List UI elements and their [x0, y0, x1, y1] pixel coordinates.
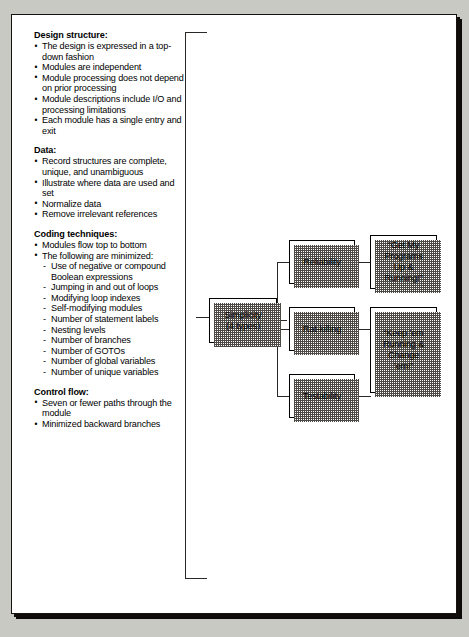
criteria-section-heading: Control flow:: [34, 387, 186, 397]
criteria-subitem: Modifying loop indexes: [42, 293, 186, 304]
criteria-subitem: Number of branches: [42, 335, 186, 346]
criteria-subitem: Number of GOTOs: [42, 346, 186, 357]
criteria-bullet-item: Module processing does not depend on pri…: [34, 73, 186, 94]
criteria-subitem: Number of unique variables: [42, 367, 186, 378]
criteria-bullet-item: Minimized backward branches: [34, 419, 186, 430]
node-testability: Testability: [289, 374, 355, 418]
criteria-section: Coding techniques:Modules flow top to bo…: [34, 229, 186, 378]
node-label: “Get MyProgramsUp &Running!”: [384, 240, 422, 283]
node-label: “Keep ’emRunning &Change’em!”: [383, 328, 424, 371]
criteria-bullet-list: The design is expressed in a top-down fa…: [34, 41, 186, 136]
criteria-section: Data:Record structures are complete, uni…: [34, 145, 186, 220]
criteria-subitem: Self-modifying modules: [42, 303, 186, 314]
criteria-subitem: Jumping in and out of loops: [42, 282, 186, 293]
criteria-text-panel: Design structure:The design is expressed…: [34, 30, 186, 429]
criteria-bullet-item: Modules flow top to bottom: [34, 240, 186, 251]
criteria-bullet-item: Normalize data: [34, 199, 186, 210]
criteria-bullet-item: Each module has a single entry and exit: [34, 115, 186, 136]
criteria-bullet-item: Illustrate where data are used and set: [34, 178, 186, 199]
panel-to-simplicity-bracket: [185, 32, 207, 579]
criteria-bullet-item: Module descriptions include I/O and proc…: [34, 94, 186, 115]
criteria-bullet-list: Record structures are complete, unique, …: [34, 156, 186, 220]
panel-to-simplicity-connector: [196, 317, 210, 318]
criteria-section-heading: Coding techniques:: [34, 229, 186, 239]
criteria-bullet-list: Modules flow top to bottomThe following …: [34, 240, 186, 261]
node-callout-keep-em-running-and-change-em: “Keep ’emRunning &Change’em!”: [370, 307, 437, 393]
criteria-subitem: Nesting levels: [42, 325, 186, 336]
criteria-section-heading: Data:: [34, 145, 186, 155]
node-reliability: Reliability: [289, 240, 355, 284]
criteria-bullet-item: Remove irrelevant references: [34, 209, 186, 220]
criteria-bullet-item: Record structures are complete, unique, …: [34, 156, 186, 177]
criteria-bullet-item: Modules are independent: [34, 62, 186, 73]
criteria-subitem: Number of statement labels: [42, 314, 186, 325]
criteria-subitem: Use of negative or compound Boolean expr…: [42, 261, 186, 282]
criteria-bullet-list: Seven or fewer paths through the moduleM…: [34, 398, 186, 430]
node-rat-killing: Rat-killing: [289, 307, 355, 351]
criteria-bullet-item: The following are minimized:: [34, 251, 186, 262]
criteria-section: Control flow:Seven or fewer paths throug…: [34, 387, 186, 430]
node-label: Simplicity(4 types): [225, 310, 262, 332]
criteria-section: Design structure:The design is expressed…: [34, 30, 186, 136]
node-simplicity: Simplicity(4 types): [209, 298, 277, 343]
node-callout-get-my-programs-up-and-running: “Get MyProgramsUp &Running!”: [370, 235, 437, 289]
criteria-subitem: Number of global variables: [42, 356, 186, 367]
criteria-bullet-item: Seven or fewer paths through the module: [34, 398, 186, 419]
criteria-bullet-item: The design is expressed in a top-down fa…: [34, 41, 186, 62]
criteria-section-heading: Design structure:: [34, 30, 186, 40]
document-page: Design structure:The design is expressed…: [11, 14, 457, 614]
criteria-subitem-list: Use of negative or compound Boolean expr…: [34, 261, 186, 378]
